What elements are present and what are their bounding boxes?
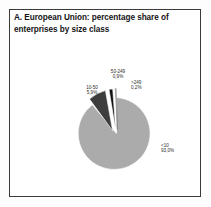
pie-label-lt10: <10 93,0% <box>161 143 174 154</box>
pie-label-gt249: >249 0,2% <box>131 80 141 91</box>
plot-area: <10 93,0% 10-50 5,9% 50-249 0,9% >249 0,… <box>9 9 201 197</box>
pie-label-10-50-value: 5,9% <box>79 90 105 95</box>
figure-panel: A. European Union: percentage share of e… <box>0 0 211 207</box>
pie-chart <box>9 9 201 197</box>
pie-label-gt249-value: 0,2% <box>131 85 141 90</box>
pie-label-lt10-value: 93,0% <box>161 148 174 153</box>
pie-label-10-50: 10-50 5,9% <box>79 85 105 96</box>
pie-label-50-249-value: 0,9% <box>104 74 132 79</box>
pie-label-50-249: 50-249 0,9% <box>104 69 132 80</box>
